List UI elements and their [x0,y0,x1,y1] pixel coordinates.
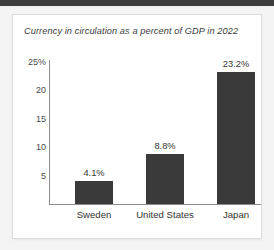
bar-value-label: 8.8% [154,141,175,151]
bar [146,154,184,204]
y-axis-tick-label: 10 [14,142,46,152]
y-axis-tick-label: 20 [14,85,46,95]
y-axis-tick: 15 [13,119,46,120]
bar [75,181,113,204]
y-axis-tick: 25% [13,62,46,63]
x-axis-line [49,204,261,205]
y-axis-tick: 10 [13,147,46,148]
x-axis-category-label: Sweden [77,209,112,220]
y-axis-line [49,60,50,205]
x-axis-category-label: United States [136,209,194,220]
bar-value-label: 4.1% [83,168,104,178]
bar-chart-plot: 510152025% 4.1%8.8%23.2% SwedenUnited St… [13,15,262,239]
y-axis-tick-label: 5 [14,171,46,181]
chart-card: Currency in circulation as a percent of … [12,14,262,239]
y-axis-tick: 20 [13,90,46,91]
x-axis-category-label: Japan [223,209,249,220]
bar-value-label: 23.2% [223,59,249,69]
y-axis-tick-label: 25% [14,57,46,67]
y-axis-tick-label: 15 [14,114,46,124]
bar [217,72,255,204]
y-axis-tick: 5 [13,176,46,177]
